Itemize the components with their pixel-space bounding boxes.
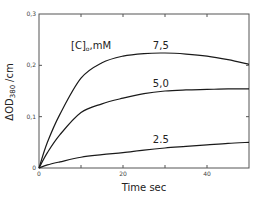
data-curves — [39, 53, 249, 168]
y-axis-title-main: ΔOD — [4, 98, 15, 121]
y-axis-ticks: 00,10,20,3 — [26, 10, 249, 171]
chart: 02040 00,10,20,3 7,55,02.5 [C]o,mM Time … — [0, 0, 258, 203]
legend-title-unit: ,mM — [89, 40, 111, 51]
y-axis-title: ΔOD380/cm — [4, 63, 17, 120]
x-tick-label: 40 — [203, 170, 211, 177]
y-axis-title-unit: /cm — [4, 63, 15, 82]
legend-title-main: [C] — [71, 40, 86, 51]
curve-labels: 7,55,02.5 — [153, 40, 169, 145]
legend-title: [C]o,mM — [71, 40, 111, 52]
plot-frame — [39, 14, 249, 168]
y-tick-label: 0,3 — [26, 10, 36, 17]
y-axis-title-sub: 380 — [9, 85, 17, 98]
curve-75 — [39, 53, 249, 168]
y-tick-label: 0 — [32, 164, 36, 171]
curve-label: 2.5 — [153, 134, 169, 145]
y-tick-label: 0,1 — [26, 113, 36, 120]
x-tick-label: 20 — [119, 170, 127, 177]
x-tick-label: 0 — [37, 170, 41, 177]
curve-50 — [39, 89, 249, 168]
curve-25 — [39, 142, 249, 168]
plot-border — [39, 14, 249, 168]
y-tick-label: 0,2 — [26, 61, 36, 68]
curve-label: 5,0 — [153, 78, 169, 89]
curve-label: 7,5 — [153, 40, 169, 51]
x-axis-title: Time sec — [121, 182, 167, 193]
